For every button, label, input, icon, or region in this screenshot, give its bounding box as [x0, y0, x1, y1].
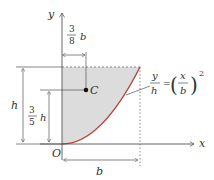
eq-rhs-den: b [180, 85, 186, 96]
eq-paren-left: ( [170, 73, 178, 97]
eq-lhs-den: h [151, 85, 157, 96]
origin-label: O [52, 147, 61, 160]
dim-3-5h-den: 5 [29, 117, 35, 127]
spandrel-centroid-diagram: y x O C 3 8 b h 3 5 h b y h = ( x b ) 2 [0, 0, 214, 180]
dim-3-5h-var: h [40, 112, 46, 123]
dim-top-den: 8 [69, 36, 75, 46]
eq-rhs-num: x [180, 70, 186, 81]
centroid-label: C [90, 84, 99, 97]
dim-b-label: b [96, 165, 103, 178]
eq-lhs-num: y [151, 70, 158, 81]
dim-3-5h-num: 3 [29, 105, 35, 115]
eq-exponent: 2 [199, 69, 204, 78]
centroid-point [84, 88, 89, 93]
shaded-area [62, 67, 140, 144]
y-axis-label: y [47, 8, 55, 21]
dim-top-num: 3 [69, 24, 75, 34]
dim-h-label: h [11, 99, 18, 112]
x-axis-label: x [199, 137, 206, 150]
dim-top-var: b [80, 31, 86, 42]
eq-paren-right: ) [190, 73, 198, 97]
